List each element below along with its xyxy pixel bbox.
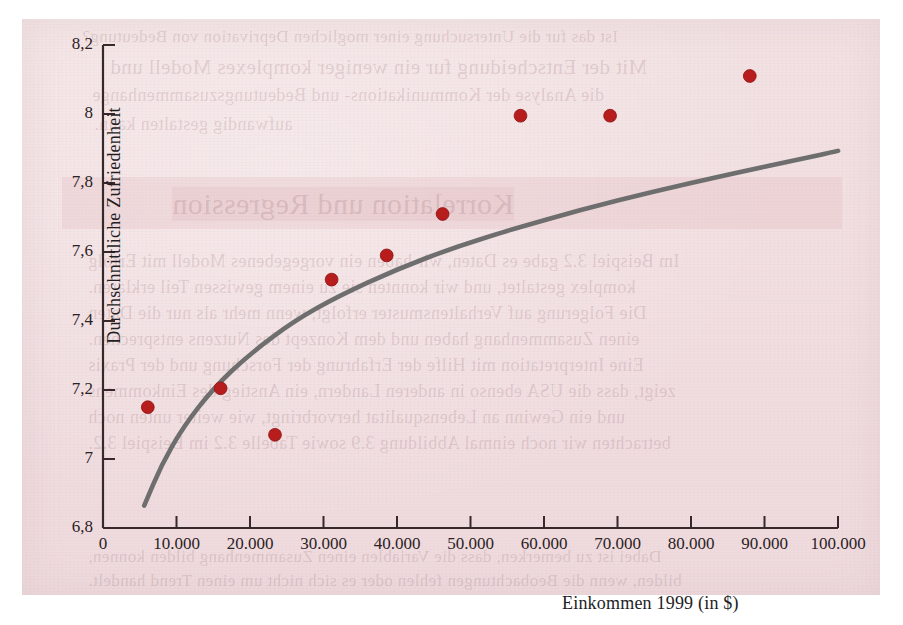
data-point bbox=[743, 70, 756, 83]
data-point bbox=[604, 109, 617, 122]
x-tick-label: 100.000 bbox=[793, 534, 883, 554]
data-point bbox=[141, 401, 154, 414]
fit-curve bbox=[144, 151, 838, 506]
y-tick-label: 7,8 bbox=[27, 172, 93, 192]
data-point bbox=[436, 208, 449, 221]
scanned-paper-panel: Ist das fur die Untersuchung einer mogli… bbox=[22, 19, 880, 595]
data-point bbox=[269, 428, 282, 441]
x-axis-title: Einkommen 1999 (in $) bbox=[562, 593, 739, 614]
ticks-group bbox=[103, 45, 838, 528]
scatter-chart: 6,877,27,47,67,888,2 010.00020.00030.000… bbox=[22, 19, 880, 595]
data-point bbox=[380, 249, 393, 262]
y-tick-label: 8 bbox=[27, 103, 93, 123]
data-point bbox=[325, 273, 338, 286]
y-tick-label: 7,6 bbox=[27, 241, 93, 261]
plot-canvas bbox=[22, 19, 880, 595]
axes-group bbox=[103, 45, 838, 528]
data-points-group bbox=[141, 70, 756, 442]
y-tick-label: 7,2 bbox=[27, 379, 93, 399]
y-tick-label: 7 bbox=[27, 448, 93, 468]
data-point bbox=[514, 109, 527, 122]
y-axis-title: Durchschnittliche Zufriedenheit bbox=[104, 76, 125, 376]
data-point bbox=[214, 382, 227, 395]
y-tick-label: 7,4 bbox=[27, 310, 93, 330]
figure-page: Ist das fur die Untersuchung einer mogli… bbox=[0, 0, 903, 625]
y-tick-label: 8,2 bbox=[27, 34, 93, 54]
